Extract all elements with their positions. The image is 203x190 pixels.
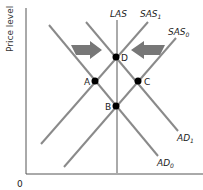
ad0-label: AD0 [156,158,174,169]
point-a-label: A [84,77,91,87]
point-c-label: C [144,77,150,87]
point-a [92,78,99,85]
point-b [113,103,120,110]
sas1-label: SAS1 [140,9,161,20]
sas0-label: SAS0 [168,27,190,38]
ad-as-diagram: Price level 0 LAS SAS1 SAS0 AD1 AD0 D A … [0,0,203,190]
ad1-label: AD1 [176,133,194,144]
point-b-label: B [105,102,111,112]
y-axis-label: Price level [5,6,15,52]
las-label: LAS [110,9,127,19]
point-d [113,54,120,61]
point-c [135,78,142,85]
point-d-label: D [121,53,128,63]
origin-label: 0 [17,179,23,189]
sas0-curve [64,38,176,167]
